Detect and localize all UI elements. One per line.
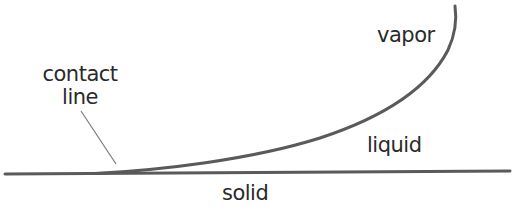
solid-surface-line xyxy=(5,171,510,174)
contact-line-label-line2: line xyxy=(40,86,120,109)
vapor-label: vapor xyxy=(377,24,435,47)
diagram-canvas: contact line vapor liquid solid xyxy=(0,0,526,212)
liquid-label: liquid xyxy=(367,134,421,157)
contact-line-label-line1: contact xyxy=(40,63,120,86)
solid-label: solid xyxy=(222,182,268,205)
contact-line-pointer xyxy=(81,111,116,164)
contact-line-label: contact line xyxy=(40,63,120,109)
